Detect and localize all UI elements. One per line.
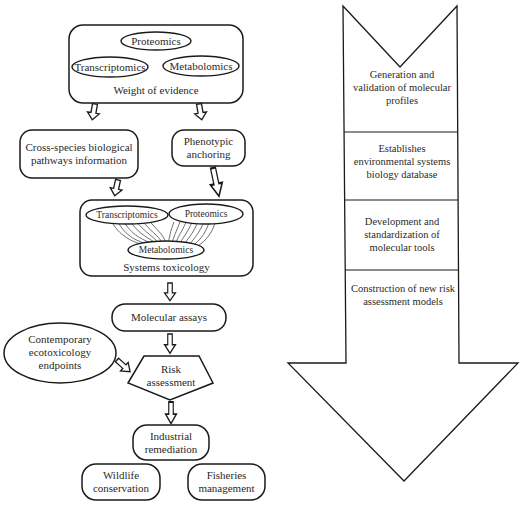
weight-of-evidence-label: Weight of evidence — [100, 83, 212, 97]
stage-2-label: Establishes environmental systems biolog… — [348, 146, 456, 176]
industrial-remediation-label: Industrial remediation — [135, 427, 207, 458]
woe-proteomics-label: Proteomics — [121, 34, 191, 48]
contemporary-endpoints-label: Contemporary ecotoxicology endpoints — [12, 330, 108, 374]
down-arrow-icon — [166, 402, 177, 424]
fisheries-management-label: Fisheries management — [190, 466, 263, 498]
stage-3-label: Development and standardization of molec… — [346, 212, 458, 256]
woe-transcriptomics-label: Transcriptomics — [72, 60, 148, 74]
down-arrow-icon — [165, 283, 176, 301]
molecular-assays-label: Molecular assays — [114, 310, 224, 324]
down-arrow-icon — [109, 179, 124, 197]
wildlife-conservation-label: Wildlife conservation — [84, 466, 158, 498]
systems-toxicology-label: Systems toxicology — [110, 260, 223, 274]
phenotypic-anchoring-label: Phenotypic anchoring — [174, 131, 243, 165]
stage-1-label: Generation and validation of molecular p… — [348, 72, 456, 102]
down-arrow-icon — [207, 167, 225, 198]
stage-4-label: Construction of new risk assessment mode… — [348, 280, 458, 310]
st-metabolomics-label: Metabolomics — [128, 244, 204, 256]
st-proteomics-label: Proteomics — [169, 208, 243, 220]
down-arrow-icon — [165, 334, 176, 353]
down-arrow-icon — [193, 103, 208, 121]
woe-metabolomics-label: Metabolomics — [163, 59, 239, 73]
down-arrow-icon — [86, 103, 101, 121]
st-transcriptomics-label: Transcriptomics — [86, 209, 168, 221]
diagonal-arrow-icon — [113, 356, 134, 376]
cross-species-label: Cross-species biological pathways inform… — [24, 134, 134, 174]
risk-assessment-label: Risk assessment — [140, 362, 202, 390]
